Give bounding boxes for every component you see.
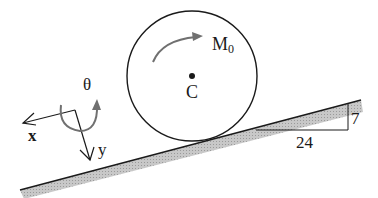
diagram-canvas: 24 7 C M0 x y θ — [0, 0, 378, 198]
moment-label: M0 — [212, 34, 234, 56]
slope-rise-label: 7 — [351, 109, 360, 128]
slope-run-label: 24 — [296, 133, 314, 152]
moment-arrowhead-icon — [192, 32, 203, 41]
moment-arrow-icon — [153, 37, 196, 62]
center-label: C — [186, 82, 198, 102]
y-axis-label: y — [98, 140, 107, 159]
x-axis-label: x — [28, 126, 37, 145]
theta-arrowhead-icon — [92, 99, 101, 110]
center-point — [189, 73, 195, 79]
theta-arrow-icon — [61, 105, 97, 131]
theta-label: θ — [83, 75, 91, 94]
